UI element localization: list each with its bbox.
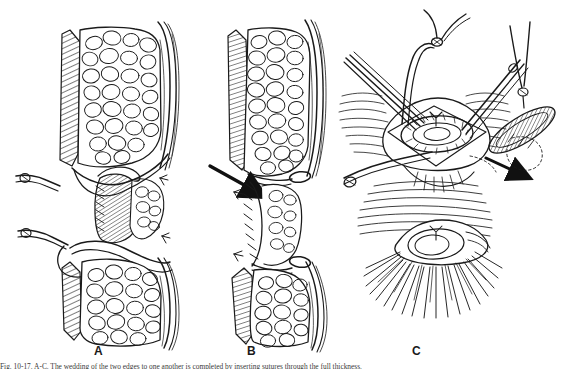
panel-c-inset-artwork <box>483 22 561 170</box>
panel-b-artwork <box>210 20 327 352</box>
surgical-figure: A B C Fig. 10-17. A-C. The wedding of th… <box>0 0 565 369</box>
figure-caption: Fig. 10-17. A-C. The wedding of the two … <box>0 362 565 369</box>
panel-letter-c: C <box>412 344 421 358</box>
panel-letter-a: A <box>94 344 103 358</box>
figure-artwork <box>0 0 565 369</box>
panel-letter-b: B <box>247 344 256 358</box>
panel-c-upper-artwork <box>339 10 528 192</box>
panel-a-artwork <box>16 22 179 350</box>
panel-c-lower-artwork <box>358 182 502 319</box>
